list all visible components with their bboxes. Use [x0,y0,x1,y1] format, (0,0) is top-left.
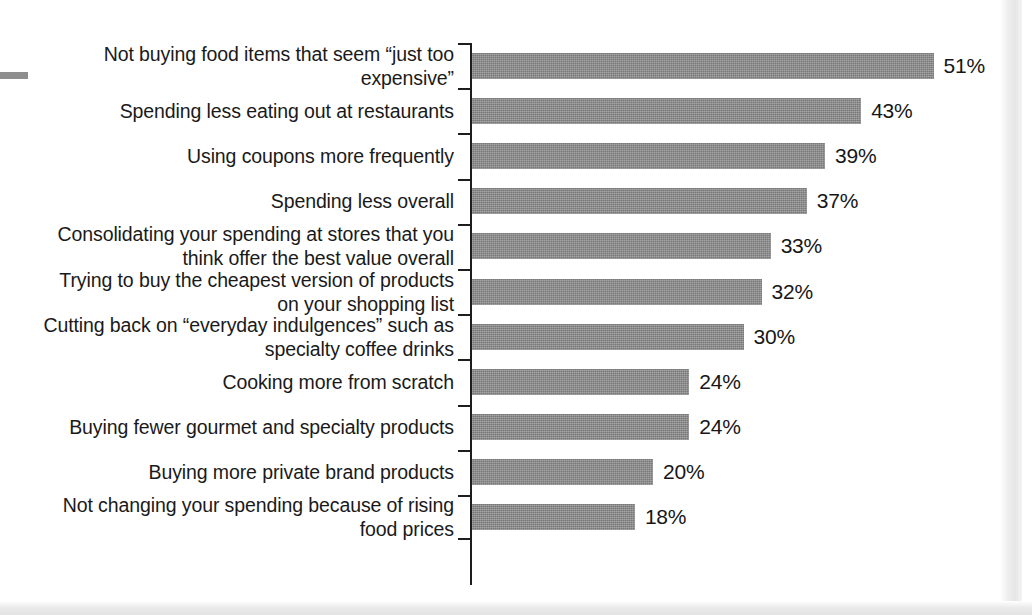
chart-row: Not changing your spending because of ri… [0,495,1032,540]
chart-row: Cutting back on “everyday indulgences” s… [0,314,1032,359]
bar-value-label: 39% [835,144,876,168]
horizontal-bar-chart: Not buying food items that seem “just to… [0,0,1032,600]
chart-row: Not buying food items that seem “just to… [0,43,1032,88]
bar [472,143,825,169]
axis-tick [458,43,470,45]
chart-row: Consolidating your spending at stores th… [0,224,1032,269]
category-label: Using coupons more frequently [14,144,454,168]
chart-row: Spending less eating out at restaurants4… [0,88,1032,133]
chart-page: Not buying food items that seem “just to… [0,0,1032,615]
bar-value-label: 37% [817,189,858,213]
category-label: Not changing your spending because of ri… [14,493,454,541]
bar [472,233,771,259]
axis-tick [458,359,470,361]
bar [472,504,635,530]
category-label: Spending less eating out at restaurants [14,99,454,123]
axis-tick [458,224,470,226]
bar [472,98,861,124]
axis-tick [458,269,470,271]
axis-tick [458,314,470,316]
bar-value-label: 32% [772,280,813,304]
page-scan-edge-bottom [0,601,1032,615]
bar [472,53,934,79]
axis-tick [458,450,470,452]
bar [472,324,744,350]
chart-row: Buying fewer gourmet and specialty produ… [0,405,1032,450]
category-label: Cutting back on “everyday indulgences” s… [14,313,454,361]
chart-row: Cooking more from scratch24% [0,359,1032,404]
axis-tick [458,133,470,135]
category-label: Not buying food items that seem “just to… [14,42,454,90]
chart-row: Trying to buy the cheapest version of pr… [0,269,1032,314]
category-label: Buying fewer gourmet and specialty produ… [14,415,454,439]
axis-tick [458,88,470,90]
bar-value-label: 33% [781,234,822,258]
category-label: Spending less overall [14,189,454,213]
chart-row: Using coupons more frequently39% [0,133,1032,178]
category-label: Buying more private brand products [14,460,454,484]
bar [472,414,689,440]
axis-tick [458,538,470,540]
bar-value-label: 30% [754,325,795,349]
bar-value-label: 51% [944,54,985,78]
chart-row: Spending less overall37% [0,179,1032,224]
page-scan-edge-right [1000,0,1022,604]
bar [472,188,807,214]
bar-value-label: 24% [699,370,740,394]
axis-tick [458,405,470,407]
bar [472,369,689,395]
category-label: Cooking more from scratch [14,370,454,394]
axis-tick [458,495,470,497]
chart-row: Buying more private brand products20% [0,450,1032,495]
axis-tick [458,179,470,181]
bar [472,459,653,485]
bar-value-label: 24% [699,415,740,439]
chart-rows: Not buying food items that seem “just to… [0,43,1032,540]
category-label: Trying to buy the cheapest version of pr… [14,268,454,316]
bar-value-label: 43% [871,99,912,123]
bar [472,279,762,305]
category-label: Consolidating your spending at stores th… [14,222,454,270]
bar-value-label: 20% [663,460,704,484]
bar-value-label: 18% [645,505,686,529]
